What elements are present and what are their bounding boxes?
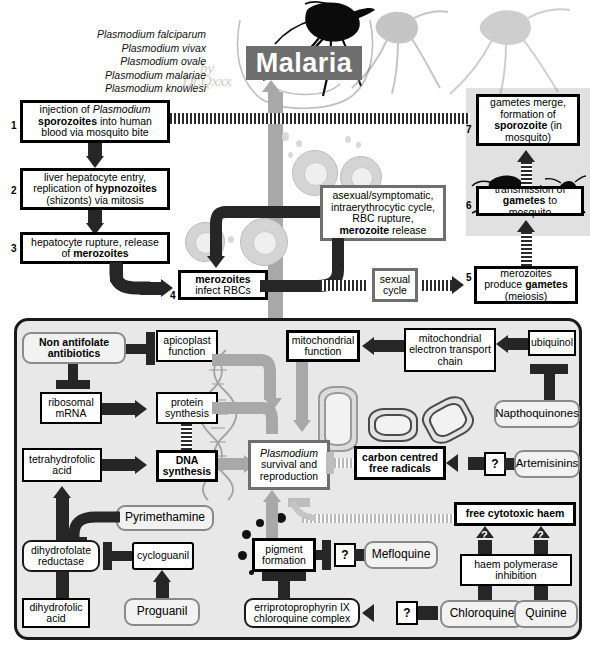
step-1-label: injection of Plasmodium sporozoites into… bbox=[26, 104, 164, 139]
target-pigment-formation: pigment formation bbox=[252, 538, 316, 572]
drug-label: Artemisinins bbox=[516, 458, 579, 470]
inhibition-bar bbox=[146, 332, 155, 365]
merozoite-speck bbox=[296, 140, 302, 147]
target-label: carbon centred free radicals bbox=[360, 452, 440, 475]
drug-proguanil[interactable]: Proguanil bbox=[124, 598, 200, 626]
target-plasmodium-survival: Plasmodiumsurvival andreproduction bbox=[248, 440, 330, 490]
etc-to-mito-function-arrowhead bbox=[362, 337, 374, 355]
step1-to-step2-arrowhead bbox=[86, 156, 104, 168]
drug-label: Quinine bbox=[525, 608, 566, 620]
page-title: Malaria bbox=[246, 46, 362, 80]
mito-function-to-survival-arrowhead bbox=[293, 420, 311, 432]
target-ubiquinol: ubiquinol bbox=[528, 330, 576, 356]
step-box-5: merozoites produce gametes (meiosis) bbox=[474, 266, 578, 304]
question-mark: ? bbox=[491, 457, 498, 471]
species-item: Plasmodium ovale bbox=[16, 55, 206, 69]
step-box-3: hepatocyte rupture, release of merozoite… bbox=[20, 232, 170, 264]
step-box-7: gametes merge, formation of sporozoite (… bbox=[476, 94, 580, 146]
target-label: pigment formation bbox=[258, 544, 310, 567]
drug-chloroquine[interactable]: Chloroquine bbox=[440, 600, 524, 628]
pigment-dot bbox=[238, 551, 247, 560]
species-item: Plasmodium falciparum bbox=[16, 28, 206, 42]
target-mitochondrial-etc: mitochondrial electron transport chain bbox=[404, 328, 496, 372]
step6-inbound-arrowhead bbox=[517, 220, 535, 232]
merozoite-speck bbox=[282, 132, 289, 141]
step4-to-sexual-shaft bbox=[266, 280, 274, 292]
asexual-cycle-box: asexual/symptomatic, intraerythrocytic c… bbox=[320, 185, 446, 241]
target-label: haem polymerase inhibition bbox=[465, 559, 567, 582]
sexual-cycle-label: sexual cycle bbox=[378, 274, 412, 297]
drug-label: Pyrimethamine bbox=[125, 512, 205, 524]
mito-function-to-survival-shaft bbox=[296, 362, 308, 422]
target-dihydrofolic-acid: dihydrofolic acid bbox=[22, 598, 90, 628]
target-ribosomal-mrna: ribosomal mRNA bbox=[40, 392, 102, 424]
proguanil-to-cycloguanil-arrowhead bbox=[153, 570, 171, 582]
step-5-label: merozoites produce gametes (meiosis) bbox=[480, 268, 572, 303]
target-dna-synthesis: DNA synthesis bbox=[156, 450, 218, 482]
unknown-mechanism-artemisinins: ? bbox=[484, 452, 506, 476]
merozoite-speck bbox=[345, 136, 351, 143]
step-number-2: 2 bbox=[11, 185, 17, 196]
haem-link-curve bbox=[290, 500, 316, 522]
question-mark: ? bbox=[341, 548, 348, 562]
step6-to-step7-hatched-arrow bbox=[521, 162, 532, 186]
drug-mefloquine[interactable]: Mefloquine bbox=[364, 541, 438, 569]
thf-to-dna-arrow-shaft bbox=[102, 459, 136, 471]
haem-polymerase-up-shaft-left bbox=[478, 540, 492, 554]
mosquito-to-human-hatched-arrow bbox=[130, 113, 470, 124]
species-item: Plasmodium malariae bbox=[16, 69, 206, 83]
drug-pyrimethamine[interactable]: Pyrimethamine bbox=[116, 505, 214, 531]
step5-inbound-arrowhead bbox=[452, 276, 464, 294]
step-box-4: merozoitesinfect RBCs bbox=[178, 270, 268, 300]
merozoite-speck bbox=[288, 152, 293, 158]
unknown-mechanism-chloroquine: ? bbox=[396, 601, 418, 625]
step5-to-step6-hatched-arrow bbox=[521, 232, 532, 266]
sexual-cycle-to-step5-hatched-arrow bbox=[422, 280, 454, 291]
etc-to-mito-function-shaft bbox=[374, 340, 406, 352]
target-label: protein synthesis bbox=[161, 397, 213, 420]
mrna-to-protein-arrowhead bbox=[135, 400, 147, 418]
drug-quinine[interactable]: Quinine bbox=[514, 600, 578, 628]
target-label: DNA synthesis bbox=[162, 455, 212, 478]
step-4-label: merozoitesinfect RBCs bbox=[195, 274, 250, 297]
target-label: free cytotoxic haem bbox=[466, 508, 565, 520]
step7-inbound-arrowhead bbox=[517, 150, 535, 162]
protein-to-dna-hatched-link bbox=[181, 424, 192, 452]
target-label: ribosomal mRNA bbox=[45, 397, 97, 420]
question-mark-arrow-left: ? bbox=[481, 529, 488, 541]
artemisinins-to-radicals-arrowhead bbox=[446, 454, 458, 472]
target-free-cytotoxic-haem: free cytotoxic haem bbox=[454, 502, 576, 526]
dna-to-survival-light-arrow-shaft bbox=[218, 458, 246, 470]
drug-label: Napthoquinones bbox=[495, 408, 579, 420]
drug-artemisinins[interactable]: Artemisinins bbox=[514, 450, 580, 478]
haem-polymerase-up-shaft-right bbox=[534, 540, 548, 554]
step-6-label: transmission ofgametes to mosquito bbox=[482, 184, 578, 219]
species-item: Plasmodium vivax bbox=[16, 42, 206, 56]
target-label: dihydrofolate reductase bbox=[27, 545, 95, 568]
ubiquinol-to-etc-shaft bbox=[508, 338, 530, 350]
step4-inbound-arrowhead bbox=[207, 256, 225, 268]
step-number-3: 3 bbox=[11, 243, 17, 254]
step-number-5: 5 bbox=[466, 272, 472, 283]
drug-label: cycloguanil bbox=[137, 550, 189, 562]
drug-label: Proguanil bbox=[137, 606, 188, 618]
inhibition-bar-horizontal bbox=[262, 572, 306, 581]
pigment-to-survival-light-arrow-shaft bbox=[266, 502, 278, 542]
species-item: Plasmodium knowlesi bbox=[16, 82, 206, 96]
drug-label: Non antifolate antibiotics bbox=[27, 337, 121, 360]
step-number-1: 1 bbox=[11, 120, 17, 131]
pigment-dot bbox=[242, 530, 251, 539]
unknown-mechanism-mefloquine: ? bbox=[334, 543, 356, 567]
drug-napthoquinones[interactable]: Napthoquinones bbox=[494, 400, 580, 428]
ubiquinol-to-etc-arrowhead bbox=[496, 335, 508, 353]
question-mark-arrow-right: ? bbox=[537, 529, 544, 541]
drug-cycloguanil[interactable]: cycloguanil bbox=[132, 542, 194, 570]
step-2-label: liver hepatocyte entry, replication of h… bbox=[26, 172, 164, 207]
drug-non-antifolate-antibiotics[interactable]: Non antifolate antibiotics bbox=[22, 332, 126, 364]
question-mark: ? bbox=[403, 606, 410, 620]
pigment-dot bbox=[256, 519, 264, 527]
step3-to-step4-arrow-shaft bbox=[140, 282, 162, 295]
asexual-cycle-label: asexual/symptomatic, intraerythrocytic c… bbox=[326, 190, 440, 236]
target-tetrahydrofolic-acid: tetrahydrofolic acid bbox=[22, 448, 102, 482]
sexual-cycle-box: sexual cycle bbox=[372, 268, 418, 302]
